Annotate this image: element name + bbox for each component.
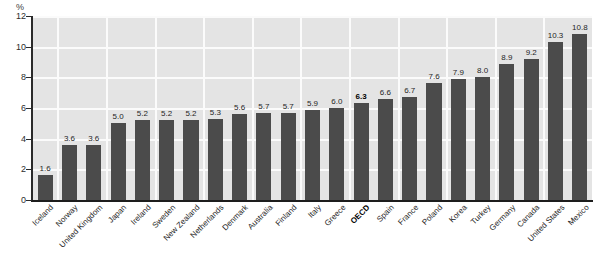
bar-value-label: 3.6 [64,134,75,143]
y-axis-tick-label: 6 [2,103,26,113]
bar[interactable] [475,77,490,200]
bar-value-label: 5.3 [210,108,221,117]
bar-value-label: 3.6 [88,134,99,143]
category-label-text: Netherlands [189,203,226,240]
category-label-text: Japan [107,203,129,225]
category-label-text: United Kingdom [58,203,105,250]
bar-value-label: 6.6 [380,88,391,97]
category-label-text: Iceland [31,203,56,228]
bar[interactable] [135,120,150,200]
bar-value-label: 5.7 [283,102,294,111]
bar[interactable] [232,114,247,200]
bar[interactable] [329,108,344,200]
vertical-gridline [398,16,400,200]
vertical-gridline [495,16,497,200]
category-label-text: Greece [322,203,347,228]
category-label-text: Australia [246,203,274,231]
bar[interactable] [159,120,174,200]
bar-value-label: 5.2 [161,109,172,118]
bar-value-label: 6.0 [331,97,342,106]
y-axis-tick-mark [26,47,32,48]
y-axis-tick-label: 0 [2,195,26,205]
bar-value-label: 5.7 [258,102,269,111]
bar[interactable] [256,113,271,200]
y-axis-tick-label: 4 [2,134,26,144]
vertical-gridline [300,16,302,200]
x-axis-line [31,200,593,202]
category-label-text: Italy [306,203,323,220]
vertical-gridline [57,16,59,200]
category-label-text: Norway [54,203,80,229]
y-axis-tick-mark [26,139,32,140]
category-label-text: United States [526,203,566,243]
bar-value-label: 8.0 [477,66,488,75]
y-axis-ticks: 024681012 [0,0,26,275]
category-label-text: Turkey [470,203,493,226]
bar[interactable] [38,175,53,200]
vertical-gridline [543,16,545,200]
bar[interactable] [378,99,393,200]
bar[interactable] [354,103,369,200]
y-axis-tick-mark [26,200,32,201]
bar-value-label: 6.7 [404,86,415,95]
category-label-text: Poland [420,203,444,227]
category-label-text: New Zealand [162,203,202,243]
category-label-text: France [396,203,420,227]
bar[interactable] [86,145,101,200]
bar[interactable] [451,79,466,200]
bar[interactable] [111,123,126,200]
y-axis-tick-label: 12 [2,11,26,21]
vertical-gridline [252,16,254,200]
vertical-gridline [349,16,351,200]
bar[interactable] [572,34,587,200]
y-axis-tick-mark [26,77,32,78]
bar[interactable] [499,64,514,200]
bar-value-label: 6.3 [356,92,367,101]
bar[interactable] [183,120,198,200]
bar-value-label: 5.2 [137,109,148,118]
y-axis-tick-label: 10 [2,42,26,52]
category-label-text: Finland [274,203,299,228]
bar-value-label: 5.6 [234,103,245,112]
vertical-gridline [446,16,448,200]
bar-value-label: 10.3 [548,31,564,40]
category-label-text: Korea [447,203,468,224]
y-axis-tick-label: 8 [2,72,26,82]
category-label-text: Mexico [566,203,590,227]
category-label-text: Canada [515,203,541,229]
horizontal-gridline [33,16,592,18]
y-axis-tick-mark [26,108,32,109]
category-label-text: Ireland [129,203,153,227]
bar[interactable] [62,145,77,200]
bar[interactable] [208,119,223,200]
bar-chart: % 024681012 1.63.63.65.05.25.25.25.35.65… [0,0,601,275]
bar-value-label: 1.6 [40,164,51,173]
vertical-gridline [106,16,108,200]
y-axis-tick-label: 2 [2,164,26,174]
bar[interactable] [548,42,563,200]
bar-value-label: 10.8 [572,23,588,32]
bar[interactable] [524,59,539,200]
bar-value-label: 5.0 [113,112,124,121]
category-label-text: Spain [375,203,396,224]
bar-value-label: 7.6 [428,72,439,81]
y-axis-tick-mark [26,16,32,17]
category-label-text: Germany [488,203,518,233]
bar[interactable] [305,110,320,200]
bar[interactable] [281,113,296,200]
y-axis-tick-mark [26,169,32,170]
category-label-text: Denmark [221,203,250,232]
horizontal-gridline [33,47,592,49]
vertical-gridline [155,16,157,200]
bar-value-label: 9.2 [526,48,537,57]
category-label-text: Sweden [150,203,177,230]
bar-value-label: 7.9 [453,68,464,77]
bar[interactable] [402,97,417,200]
bar-value-label: 5.2 [185,109,196,118]
bar-value-label: 8.9 [501,53,512,62]
bar[interactable] [426,83,441,200]
bar-value-label: 5.9 [307,99,318,108]
category-label-text: OECD [349,203,372,226]
vertical-gridline [203,16,205,200]
